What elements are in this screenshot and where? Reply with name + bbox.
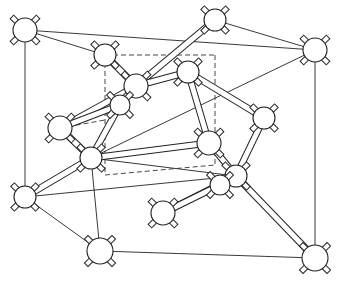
atom [12, 17, 39, 44]
atom [47, 115, 74, 142]
atom [108, 93, 132, 117]
atom [175, 59, 200, 84]
atom [78, 145, 103, 170]
cube-edge [100, 251, 315, 258]
atom [150, 200, 177, 227]
atom [12, 184, 37, 209]
atoms [12, 7, 330, 272]
atom [196, 130, 223, 157]
atom [301, 244, 329, 272]
cube-edge [215, 20, 315, 50]
diamond-crystal-diagram: Diamond cubic crystal structure [0, 0, 342, 287]
atom [92, 42, 117, 67]
crystal-structure-svg [0, 0, 342, 287]
atom [251, 105, 276, 130]
bond [91, 143, 209, 158]
atom [208, 173, 232, 197]
cube-edge [91, 158, 236, 176]
atom [86, 237, 114, 265]
atom [202, 7, 227, 32]
cube-edge [91, 158, 100, 251]
atom [302, 37, 329, 64]
cube-edge [25, 30, 315, 50]
